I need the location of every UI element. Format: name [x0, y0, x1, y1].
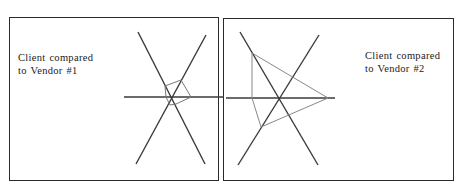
cropped-caption-remnant	[0, 0, 461, 6]
panel-label-vendor-1: Client compared to Vendor #1	[18, 51, 93, 77]
panel-label-line2: to Vendor #2	[365, 62, 440, 75]
panel-label-vendor-2: Client compared to Vendor #2	[365, 49, 440, 75]
panel-label-line1: Client compared	[18, 51, 93, 64]
panel-label-line2: to Vendor #1	[18, 64, 93, 77]
panel-label-line1: Client compared	[365, 49, 440, 62]
chart-panel-vendor-1	[9, 17, 219, 181]
chart-panel-vendor-2	[223, 18, 454, 181]
